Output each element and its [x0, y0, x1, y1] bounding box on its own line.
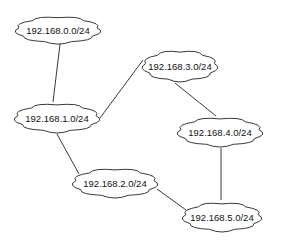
- node-label-4: 192.168.4.0/24: [188, 127, 251, 138]
- clouds: [14, 17, 263, 232]
- node-label-3: 192.168.3.0/24: [148, 61, 211, 72]
- edge-n0-n1: [53, 44, 60, 102]
- node-label-0: 192.168.0.0/24: [26, 25, 89, 36]
- node-label-5: 192.168.5.0/24: [190, 212, 253, 223]
- edge-n2-n5: [157, 189, 186, 210]
- edge-n3-n4: [175, 83, 216, 116]
- edge-n1-n3: [100, 60, 143, 118]
- node-label-2: 192.168.2.0/24: [83, 178, 146, 189]
- edge-n1-n2: [57, 134, 79, 174]
- node-label-1: 192.168.1.0/24: [25, 113, 88, 124]
- network-diagram: [0, 0, 283, 247]
